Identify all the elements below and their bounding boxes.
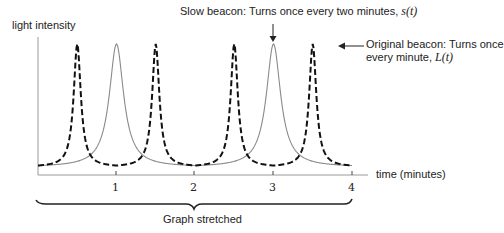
slow-beacon-text: Slow beacon: Turns once every two minute… bbox=[180, 5, 401, 17]
slow-beacon-arrow bbox=[270, 24, 277, 42]
slow-beacon-math: s(t) bbox=[401, 4, 417, 18]
x-axis-label: time (minutes) bbox=[376, 168, 446, 181]
original-beacon-arrow bbox=[338, 43, 364, 50]
original-beacon-annotation: Original beacon: Turns once every minute… bbox=[366, 38, 504, 64]
tick-label-3: 3 bbox=[269, 181, 276, 194]
brace bbox=[36, 199, 352, 209]
y-axis-label: light intensity bbox=[12, 19, 76, 32]
slow-beacon-annotation: Slow beacon: Turns once every two minute… bbox=[180, 5, 417, 18]
tick-label-4: 4 bbox=[348, 181, 355, 194]
x-ticks bbox=[116, 171, 352, 175]
original-beacon-curve bbox=[38, 44, 352, 166]
tick-label-1: 1 bbox=[112, 181, 119, 194]
slow-beacon-curve bbox=[38, 44, 352, 166]
tick-label-2: 2 bbox=[190, 181, 197, 194]
original-beacon-line2: every minute, L(t) bbox=[366, 51, 504, 64]
brace-label: Graph stretched bbox=[163, 213, 242, 226]
